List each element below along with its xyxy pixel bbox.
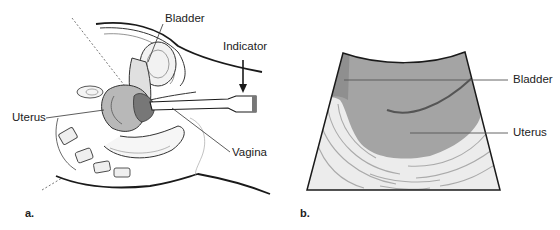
panel-letter-a: a. (25, 207, 34, 219)
ultrasound-sector-drawing (280, 0, 560, 230)
label-indicator: Indicator (223, 40, 267, 52)
label-uterus: Uterus (513, 126, 547, 138)
indicator-arrow-icon (239, 84, 247, 93)
label-uterus: Uterus (12, 111, 46, 123)
label-bladder: Bladder (513, 73, 553, 85)
panel-a-sagittal-illustration: Bladder Indicator Uterus Vagina a. (0, 0, 280, 230)
label-bladder: Bladder (165, 12, 205, 24)
probe-indicator-mark (252, 96, 256, 112)
label-vagina: Vagina (232, 146, 267, 158)
panel-b-ultrasound-schematic: Bladder Uterus b. (280, 0, 560, 230)
panel-letter-b: b. (300, 207, 310, 219)
